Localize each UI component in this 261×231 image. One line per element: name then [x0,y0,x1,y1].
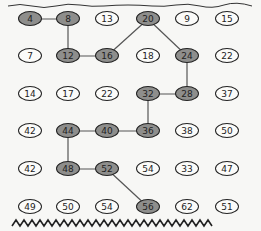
path-number-oval[interactable]: 32 [136,86,160,101]
number-oval[interactable]: 33 [175,161,199,176]
number-oval[interactable]: 13 [95,11,119,26]
number-oval[interactable]: 54 [95,199,119,214]
number-path-puzzle: 4813209157121618242214172232283742444036… [0,0,261,231]
number-oval[interactable]: 7 [18,48,42,63]
puzzle-decoration [0,0,261,231]
path-number-oval[interactable]: 52 [95,161,119,176]
path-number-oval[interactable]: 40 [95,123,119,138]
number-oval[interactable]: 54 [136,161,160,176]
number-oval[interactable]: 42 [18,123,42,138]
number-oval[interactable]: 18 [136,48,160,63]
path-number-oval[interactable]: 28 [175,86,199,101]
bottom-squiggle-border [12,220,212,226]
number-oval[interactable]: 15 [215,11,239,26]
number-oval[interactable]: 42 [18,161,42,176]
number-oval[interactable]: 17 [56,86,80,101]
path-number-oval[interactable]: 24 [175,48,199,63]
path-number-oval[interactable]: 36 [136,123,160,138]
number-oval[interactable]: 50 [56,199,80,214]
number-oval[interactable]: 50 [215,123,239,138]
number-oval[interactable]: 38 [175,123,199,138]
number-oval[interactable]: 49 [18,199,42,214]
path-number-oval[interactable]: 12 [56,48,80,63]
path-number-oval[interactable]: 4 [18,11,42,26]
number-oval[interactable]: 22 [95,86,119,101]
number-oval[interactable]: 47 [215,161,239,176]
path-number-oval[interactable]: 44 [56,123,80,138]
path-number-oval[interactable]: 20 [136,11,160,26]
number-oval[interactable]: 51 [215,199,239,214]
number-oval[interactable]: 22 [215,48,239,63]
number-oval[interactable]: 62 [175,199,199,214]
number-oval[interactable]: 9 [175,11,199,26]
path-number-oval[interactable]: 8 [56,11,80,26]
top-wavy-border [8,3,252,7]
path-number-oval[interactable]: 48 [56,161,80,176]
path-number-oval[interactable]: 16 [95,48,119,63]
number-oval[interactable]: 37 [215,86,239,101]
path-number-oval[interactable]: 56 [136,199,160,214]
number-oval[interactable]: 14 [18,86,42,101]
